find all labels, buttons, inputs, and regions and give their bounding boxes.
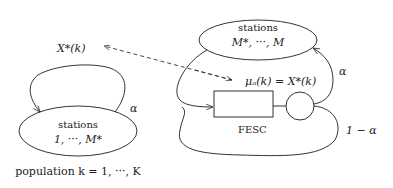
dashed-arrow [104,46,232,80]
fesc-label: FESC [238,124,267,135]
flow-to-fesc [177,50,213,107]
dashed-arrow-tail [195,70,232,80]
right-stations-label: stations [238,22,278,33]
left-stations-range: 1, ···, M* [54,133,103,146]
left-subnetwork: stations 1, ···, M* α population k = 1, … [15,65,141,178]
alpha-left-label: α [130,102,138,115]
fesc-server-circle [286,92,314,120]
fesc-queue-rect [214,91,273,117]
left-stations-label: stations [58,119,98,130]
left-stations-ellipse [19,106,137,156]
right-stations-range: M*, ···, M [231,36,285,49]
left-feedback-loop [30,65,125,112]
right-subnetwork: stations M*, ···, M FESC μₐ(k) = X*(k) α… [177,20,377,156]
queueing-network-diagram: stations 1, ···, M* α population k = 1, … [0,0,393,188]
alpha-right-label: α [339,65,347,78]
mu-label: μₐ(k) = X*(k) [245,75,316,88]
one-minus-alpha-label: 1 − α [346,124,377,137]
x-star-label: X*(k) [56,42,86,55]
population-label: population k = 1, ···, K [15,165,141,178]
